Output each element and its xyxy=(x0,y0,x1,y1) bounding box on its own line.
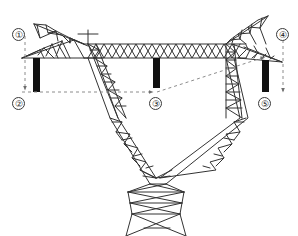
left-arm-group xyxy=(22,24,96,58)
right-arm-group xyxy=(226,16,282,62)
tower-lattice-geometry xyxy=(22,16,282,236)
callout-marker-5: ⑤ xyxy=(258,97,271,110)
lower-left-bracing xyxy=(110,118,156,178)
callout-marker-1: ① xyxy=(12,28,25,41)
callout-marker-2: ② xyxy=(12,97,25,110)
right-insulator-string xyxy=(262,60,269,92)
tower-body-v xyxy=(88,58,248,184)
left-insulator-string xyxy=(33,58,40,92)
tower-drawing-svg xyxy=(0,0,298,236)
tower-waist-crossover xyxy=(126,170,186,236)
lower-right-bracing xyxy=(160,118,246,178)
tower-diagram-figure: ① ② ③ ④ ⑤ xyxy=(0,0,298,236)
diagonal-dimension-right xyxy=(157,57,265,92)
callout-marker-4: ④ xyxy=(276,28,289,41)
upper-crossarm-truss xyxy=(84,44,246,58)
callout-marker-3: ③ xyxy=(149,97,162,110)
center-insulator-string xyxy=(153,58,160,88)
